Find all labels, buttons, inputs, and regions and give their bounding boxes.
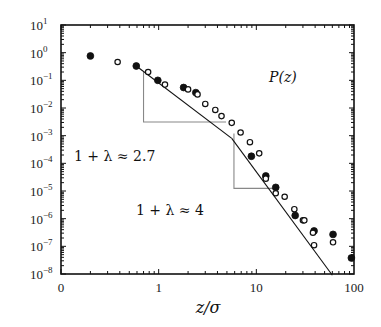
x-tick-label: 1 (155, 280, 162, 295)
data-point-open (330, 240, 335, 245)
data-point-open (185, 87, 190, 92)
data-point-open (219, 113, 224, 118)
fit-line-segment (232, 138, 333, 275)
data-point-filled (133, 63, 140, 70)
data-point-open (203, 101, 208, 106)
data-point-open (257, 151, 262, 156)
data-point-open (302, 218, 307, 223)
y-tick-label: 10−4 (30, 154, 53, 171)
data-point-open (263, 176, 268, 181)
data-point-open (247, 140, 252, 145)
data-point-open (195, 92, 200, 97)
data-point-filled (154, 77, 161, 84)
data-point-open (229, 120, 234, 125)
slope-triangles (144, 72, 278, 188)
y-tick-label: 101 (30, 16, 48, 33)
y-tick-label: 10−3 (30, 127, 53, 144)
data-point-open (311, 242, 316, 247)
data-point-filled (87, 53, 94, 60)
y-tick-label: 10−6 (30, 210, 53, 227)
data-point-open (115, 59, 120, 64)
data-point-open (273, 191, 278, 196)
x-tick-label: 0 (58, 280, 65, 295)
data-point-open (282, 194, 287, 199)
chart: 10110010−110−210−310−410−510−610−710−8 0… (0, 0, 381, 327)
x-axis-title: z/σ (195, 298, 222, 317)
data-point-open (310, 230, 315, 235)
data-point-filled (330, 231, 337, 238)
data-point-filled (248, 153, 255, 160)
data-point-open (213, 107, 218, 112)
data-point-open (162, 82, 167, 87)
y-tick-label: 10−5 (30, 182, 53, 199)
slope-label-2: 1 + λ ≈ 4 (136, 202, 204, 218)
y-tick-label: 10−7 (30, 237, 53, 254)
y-tick-label-group: 10110010−110−210−310−410−510−610−710−8 (30, 16, 53, 282)
curve-label: P(z) (268, 69, 297, 85)
data-point-open (145, 69, 150, 74)
y-tick-label: 10−8 (30, 265, 53, 282)
data-point-open (238, 130, 243, 135)
data-point-filled (272, 184, 279, 191)
x-tick-label: 100 (344, 280, 364, 295)
x-tick-label: 10 (250, 280, 263, 295)
slope-label-1: 1 + λ ≈ 2.7 (74, 148, 155, 164)
slope-triangle (234, 133, 277, 188)
data-point-filled (292, 212, 299, 219)
fit-line-segment (136, 66, 231, 138)
y-tick-label: 10−1 (30, 71, 53, 88)
y-tick-label: 10−2 (30, 99, 53, 116)
y-tick-label: 100 (30, 44, 48, 61)
data-point-open (292, 206, 297, 211)
x-tick-label-group: 0110100 (58, 280, 364, 295)
